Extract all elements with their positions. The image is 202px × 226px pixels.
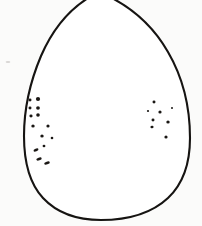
speckle-dot [46, 125, 49, 128]
figure-canvas [0, 0, 202, 226]
speckle-dot [43, 145, 46, 147]
speckle-dot [29, 115, 32, 118]
speckle-dot [29, 107, 32, 110]
speckle-dot [36, 97, 40, 101]
speckle-dot [158, 111, 161, 114]
speckle-dot [36, 113, 40, 116]
speckle-dot [152, 119, 155, 122]
speckle-dot [166, 120, 169, 123]
speckle-dot [31, 125, 34, 128]
speckle-dot [40, 135, 43, 138]
speckle-dot [164, 136, 167, 139]
speckle-dot [29, 99, 32, 102]
faint-mark-left-edge [6, 61, 11, 63]
speckle-dot [51, 137, 54, 139]
speckle-dot [147, 110, 149, 112]
speckle-dot [36, 106, 40, 109]
speckle-dot [171, 107, 173, 109]
egg-drawing-svg [0, 0, 202, 226]
speckle-dot [153, 101, 156, 104]
